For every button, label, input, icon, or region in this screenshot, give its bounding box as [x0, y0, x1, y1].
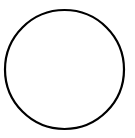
- circle-graphic: [0, 0, 135, 138]
- circle-outline: [5, 10, 124, 129]
- canvas: [0, 0, 135, 138]
